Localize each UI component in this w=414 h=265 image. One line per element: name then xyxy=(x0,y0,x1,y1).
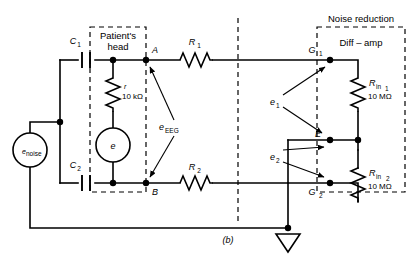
capacitor-c2 xyxy=(82,175,90,191)
dot-rin-mid xyxy=(355,137,361,143)
signal-e2-label: e xyxy=(270,152,275,162)
resistor-r1-sub: 1 xyxy=(197,42,201,49)
wire-enoise-top xyxy=(30,122,60,133)
resistor-rin2-value: 10 MΩ xyxy=(368,182,392,191)
dot-node-a xyxy=(143,57,149,63)
ground-symbol xyxy=(276,234,300,252)
noise-reduction-title: Noise reduction xyxy=(328,13,394,24)
node-label-b: B xyxy=(152,187,158,197)
arrow-e2-to-g2 xyxy=(283,162,324,177)
dot-node-e xyxy=(327,137,333,143)
dot-node-g2 xyxy=(327,180,333,186)
resistor-r2-label: R xyxy=(189,162,196,172)
dot-enoise-tap xyxy=(57,119,63,125)
noise-reduction-boundary xyxy=(317,27,405,192)
node-label-g1-sub: 1 xyxy=(319,50,323,57)
noise-reduction-dashed-box xyxy=(317,27,405,192)
diff-amp-label: Diff – amp xyxy=(339,37,382,48)
resistor-rin1-sub2: 1 xyxy=(385,85,389,92)
patient-head-line1: Patient's xyxy=(100,30,136,41)
resistor-rin2-label: R xyxy=(369,168,376,178)
node-label-e: E xyxy=(315,129,322,139)
wire-g1-to-rin1 xyxy=(330,60,358,78)
dot-ground xyxy=(285,225,291,231)
node-label-g2-sub: 2 xyxy=(319,192,323,199)
resistor-r1-label: R xyxy=(189,37,196,47)
dot-node-b xyxy=(143,180,149,186)
resistor-r-head-label: r xyxy=(124,83,127,90)
node-label-a: A xyxy=(151,45,158,55)
arrow-e2-to-e xyxy=(283,147,324,150)
capacitor-c2-sub: 2 xyxy=(77,165,81,172)
resistor-rin1-label: R xyxy=(369,78,376,88)
wire-rin2-to-g2 xyxy=(330,183,358,202)
source-e-label: e xyxy=(110,141,115,151)
signal-e2-sub: 2 xyxy=(276,157,280,164)
signal-eeeg-sub: EEG xyxy=(165,127,179,134)
capacitor-c1 xyxy=(82,52,90,68)
resistor-r-head xyxy=(106,78,120,112)
resistor-r-head-value: 10 kΩ xyxy=(122,92,143,101)
wiring xyxy=(30,60,358,228)
resistor-r2-sub: 2 xyxy=(197,167,201,174)
arrow-eeeg-to-a xyxy=(150,67,174,120)
wire-enoise-bottom-to-ground xyxy=(30,167,288,228)
resistor-r2 xyxy=(180,176,213,190)
resistor-rin2-sub: in xyxy=(376,173,381,180)
resistor-rin1-value: 10 MΩ xyxy=(368,92,392,101)
arrow-eeeg-to-b xyxy=(150,136,174,177)
resistor-rin1-sub: in xyxy=(376,83,381,90)
node-label-g1: G xyxy=(308,45,315,55)
signal-e1-sub: 1 xyxy=(276,102,280,109)
source-enoise-sub: noise xyxy=(26,150,42,157)
capacitor-c2-label: C xyxy=(70,160,77,170)
capacitor-c1-label: C xyxy=(70,36,77,46)
figure-caption: (b) xyxy=(223,235,234,245)
node-label-g2: G xyxy=(308,187,315,197)
dot-head-top xyxy=(110,57,116,63)
resistor-rin2-sub2: 2 xyxy=(386,175,390,182)
dot-head-bottom xyxy=(110,180,116,186)
signal-e1-label: e xyxy=(270,97,275,107)
dot-node-g1 xyxy=(327,57,333,63)
resistor-rin1 xyxy=(351,78,365,112)
signal-eeeg-label: e xyxy=(159,122,164,132)
resistor-r1 xyxy=(180,53,213,67)
capacitor-c1-sub: 1 xyxy=(77,41,81,48)
circuit-diagram-figure: Patient's head Noise reduction Diff – am… xyxy=(0,0,414,265)
arrow-e1-to-g1 xyxy=(283,67,325,95)
patient-head-line2: head xyxy=(107,41,128,52)
circuit-svg: Patient's head Noise reduction Diff – am… xyxy=(0,0,414,265)
